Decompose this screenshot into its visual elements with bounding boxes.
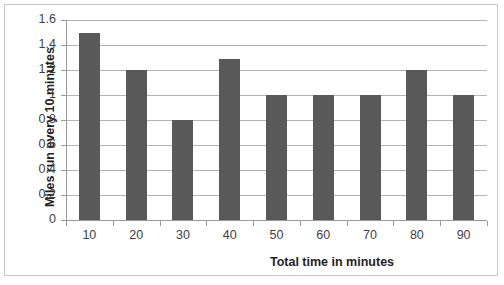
bar bbox=[406, 70, 427, 220]
x-tick-mark bbox=[66, 221, 67, 226]
bar bbox=[453, 95, 474, 220]
y-tick-label: 1.2 bbox=[16, 63, 56, 75]
x-tick-mark bbox=[487, 221, 488, 226]
x-tick-label: 80 bbox=[394, 228, 440, 242]
x-tick-mark bbox=[393, 221, 394, 226]
x-tick-mark bbox=[253, 221, 254, 226]
y-tick-label: 0.8 bbox=[16, 113, 56, 125]
y-tick-label: 0 bbox=[16, 213, 56, 225]
y-tick-label: 0.4 bbox=[16, 163, 56, 175]
x-tick-mark bbox=[113, 221, 114, 226]
x-tick-label: 50 bbox=[254, 228, 300, 242]
x-axis-line bbox=[66, 220, 487, 221]
bar bbox=[360, 95, 381, 220]
bar bbox=[219, 59, 240, 220]
x-axis-title: Total time in minutes bbox=[232, 255, 432, 269]
y-tick-label: 1.6 bbox=[16, 13, 56, 25]
bar-chart: Miles run every 10 minutes 00.20.40.60.8… bbox=[0, 0, 504, 285]
x-tick-label: 70 bbox=[347, 228, 393, 242]
bar bbox=[79, 33, 100, 221]
bar bbox=[172, 120, 193, 220]
y-tick-label: 0.2 bbox=[16, 188, 56, 200]
bar bbox=[313, 95, 334, 220]
x-tick-label: 60 bbox=[300, 228, 346, 242]
y-tick-label: 0.6 bbox=[16, 138, 56, 150]
x-tick-mark bbox=[160, 221, 161, 226]
chart-page: Miles run every 10 minutes 00.20.40.60.8… bbox=[0, 0, 504, 285]
x-tick-label: 30 bbox=[160, 228, 206, 242]
bar bbox=[126, 70, 147, 220]
x-tick-mark bbox=[300, 221, 301, 226]
x-tick-label: 90 bbox=[441, 228, 487, 242]
x-tick-mark bbox=[347, 221, 348, 226]
x-tick-mark bbox=[206, 221, 207, 226]
y-tick-label: 1.4 bbox=[16, 38, 56, 50]
x-tick-label: 10 bbox=[66, 228, 112, 242]
x-tick-label: 20 bbox=[113, 228, 159, 242]
x-tick-mark bbox=[440, 221, 441, 226]
x-tick-label: 40 bbox=[207, 228, 253, 242]
bar bbox=[266, 95, 287, 220]
bars-layer bbox=[66, 20, 487, 220]
y-tick-label: 1 bbox=[16, 88, 56, 100]
